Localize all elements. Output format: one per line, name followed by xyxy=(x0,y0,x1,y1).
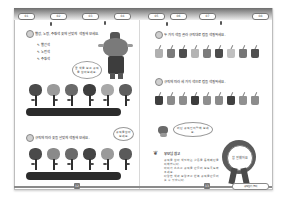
soil-strip xyxy=(26,108,121,116)
cup[interactable] xyxy=(179,45,188,58)
tab-2[interactable]: 02 xyxy=(50,13,67,20)
cup[interactable] xyxy=(155,45,164,58)
paint-drip-icon xyxy=(104,21,106,25)
right-page-number: 13 xyxy=(204,183,210,189)
cup[interactable] xyxy=(155,92,164,105)
option-label: 빨간색 xyxy=(41,43,50,47)
flower[interactable] xyxy=(64,84,79,108)
option-yellow: ✎ 노란색 xyxy=(37,49,50,54)
flower[interactable] xyxy=(46,148,61,172)
option-orange: ✎ 주황색 xyxy=(37,56,50,61)
right-question-2: 규칙에 따라 세 가지 색으로 컵을 색칠하세요. xyxy=(164,79,226,84)
flower[interactable] xyxy=(82,148,97,172)
paint-drip-icon xyxy=(50,22,52,26)
small-mascot-body xyxy=(160,133,167,137)
flower[interactable] xyxy=(28,148,43,172)
cup[interactable] xyxy=(239,45,248,58)
tab-1[interactable]: 01 xyxy=(18,13,35,20)
footer-label: 규칙 찾기 놀이 xyxy=(232,183,269,190)
mascot-arm xyxy=(127,44,133,47)
note-line-2: 아이가 스스로 규칙을 만들어 보도록 도와주세요. xyxy=(164,166,222,174)
cup-row-2 xyxy=(155,92,260,105)
note-line-1: 규칙을 찾아 색칠하는 활동을 통해 패턴을 이해합니다. xyxy=(164,158,222,166)
flower[interactable] xyxy=(28,84,43,108)
cup[interactable] xyxy=(179,92,188,105)
option-red: ✎ 빨간색 xyxy=(37,42,50,47)
flower[interactable] xyxy=(100,148,115,172)
cup[interactable] xyxy=(191,45,200,58)
cup[interactable] xyxy=(239,92,248,105)
note-icon: ❦ xyxy=(153,149,158,156)
flower[interactable] xyxy=(46,84,61,108)
cup[interactable] xyxy=(215,92,224,105)
paint-drip-icon xyxy=(220,21,222,25)
question-icon xyxy=(26,30,34,38)
tab-8[interactable]: 08 xyxy=(252,13,269,20)
cup[interactable] xyxy=(191,92,200,105)
cup[interactable] xyxy=(215,45,224,58)
cup[interactable] xyxy=(167,92,176,105)
question-icon xyxy=(155,31,163,39)
mascot-body xyxy=(108,56,124,74)
flower[interactable] xyxy=(82,84,97,108)
tab-4[interactable]: 04 xyxy=(114,13,131,20)
flower[interactable] xyxy=(64,148,79,172)
flower-row-2 xyxy=(28,148,133,172)
question-icon xyxy=(26,134,34,142)
mascot-head xyxy=(103,38,128,57)
small-speech-bubble: 규칙을 찾아 보세요. xyxy=(113,127,134,141)
tab-7[interactable]: 07 xyxy=(199,13,216,20)
cup[interactable] xyxy=(251,45,260,58)
page-spine xyxy=(139,8,140,189)
soil-strip xyxy=(26,172,121,180)
option-label: 주황색 xyxy=(41,57,50,61)
flower[interactable] xyxy=(118,148,133,172)
left-question-2: 규칙에 따라 꽃을 알맞게 색칠해 보세요. xyxy=(35,135,89,140)
flower[interactable] xyxy=(118,84,133,108)
paint-drip-icon xyxy=(166,22,168,26)
question-icon xyxy=(155,78,163,86)
option-label: 노란색 xyxy=(41,50,50,54)
mascot-leg xyxy=(110,73,115,79)
speech-bubble: 꽃 색을 보고 규칙을 찾아보세요. xyxy=(72,61,102,79)
cup[interactable] xyxy=(227,45,236,58)
award-badge-icon: 참 잘했어요 xyxy=(222,140,256,174)
cup[interactable] xyxy=(227,92,236,105)
flower-row-1 xyxy=(28,84,133,108)
mascot-leg xyxy=(118,73,123,79)
flower[interactable] xyxy=(100,84,115,108)
mascot-arm xyxy=(98,44,104,47)
tab-3[interactable]: 03 xyxy=(82,13,99,20)
cup[interactable] xyxy=(203,92,212,105)
note-line-3: 다양한 색과 모양으로 반복 규칙을 만들어 볼 수 있습니다. xyxy=(164,174,222,182)
note-title: 부모님 참고 xyxy=(164,151,180,156)
cup[interactable] xyxy=(203,45,212,58)
cup-row-1 xyxy=(155,45,260,58)
tab-5[interactable]: 05 xyxy=(148,13,165,20)
speech-bubble: 어떤 규칙인지 말해 보세요. xyxy=(173,122,213,137)
tab-6[interactable]: 06 xyxy=(170,13,187,20)
left-page-number: 12 xyxy=(74,183,80,189)
right-question-1: 두 가지 색을 골라 규칙대로 컵을 색칠하세요. xyxy=(164,32,226,37)
cup[interactable] xyxy=(251,92,260,105)
left-question-1: 빨강, 노랑, 주황색 꽃에 알맞게 색칠해 보세요. xyxy=(35,31,99,36)
cup[interactable] xyxy=(167,45,176,58)
